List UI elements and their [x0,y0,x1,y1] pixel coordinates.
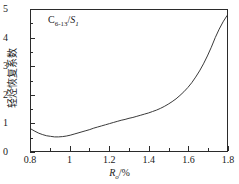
y-tick-major [30,152,35,153]
x-tick-label: 1.2 [95,154,123,165]
y-tick-major [30,95,35,96]
y-tick-major [30,66,35,67]
y-tick-minor [30,81,33,82]
y-tick-label: 5 [3,4,8,14]
x-tick-major [30,146,31,151]
annotation-subscript-1: 6-13 [55,20,68,28]
x-tick-minor [208,148,209,151]
y-tick-major [30,38,35,39]
x-tick-minor [89,148,90,151]
y-tick-label: 0 [3,147,8,157]
annotation-base-1: C [48,14,55,25]
curve-series [31,10,227,151]
x-tick-minor [50,148,51,151]
y-tick-major [30,9,35,10]
chart-figure: 0.811.21.41.61.8 012345 C6-13/S1 Ro/% 轻烃… [0,0,239,184]
y-tick-minor [30,138,33,139]
x-tick-label: 0.8 [16,154,44,165]
x-axis-title-unit: /% [119,167,130,178]
x-axis-title: Ro/% [0,167,239,181]
x-tick-label: 1.8 [214,154,239,165]
x-tick-minor [169,148,170,151]
y-tick-minor [30,23,33,24]
x-tick-major [109,146,110,151]
x-tick-minor [129,148,130,151]
plot-area [30,9,228,152]
y-axis-title: 轻烃恢复系数 [7,28,18,128]
y-tick-minor [30,109,33,110]
series-annotation: C6-13/S1 [48,14,79,28]
x-tick-major [149,146,150,151]
curve-polyline [31,16,227,137]
x-tick-label: 1.6 [174,154,202,165]
x-tick-major [228,146,229,151]
x-tick-major [188,146,189,151]
annotation-subscript-2: 1 [75,20,79,28]
x-tick-label: 1 [56,154,84,165]
x-tick-major [70,146,71,151]
y-tick-major [30,123,35,124]
y-tick-minor [30,52,33,53]
x-tick-label: 1.4 [135,154,163,165]
